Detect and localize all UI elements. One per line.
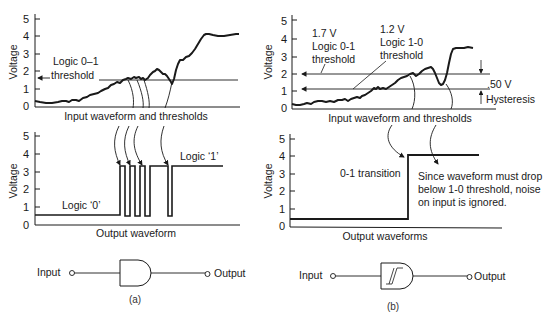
panel-b-gate: Input Output (b) <box>299 263 506 312</box>
y-ticks <box>292 20 297 91</box>
gate-input-label: Input <box>37 266 60 278</box>
y-ticks <box>35 136 40 207</box>
gate-output-label: Output <box>474 270 506 282</box>
transition-label: 0-1 transition <box>340 167 401 179</box>
tick-0: 0 <box>279 220 285 232</box>
input-terminal-icon <box>331 274 336 279</box>
lower-threshold-label-line2: threshold <box>380 49 423 61</box>
y-axis-label: Voltage <box>262 44 274 79</box>
tick-5: 5 <box>279 133 285 145</box>
y-ticks <box>290 139 295 209</box>
tick-3: 3 <box>279 168 285 180</box>
panel-a-gate: Input Output (a) <box>37 260 246 305</box>
hysteresis-value: .50 V <box>487 78 512 90</box>
tick-1: 1 <box>279 203 285 215</box>
caption-a: (a) <box>129 294 141 305</box>
tick-4: 4 <box>23 30 29 42</box>
tick-2: 2 <box>281 68 287 80</box>
tick-2: 2 <box>279 185 285 197</box>
x-axis-label: Input waveform and thresholds <box>64 110 208 122</box>
and-gate-icon <box>120 260 151 286</box>
logic-1-label: Logic ‘1’ <box>180 150 219 162</box>
output-terminal-icon <box>467 275 472 280</box>
tick-0: 0 <box>23 219 29 231</box>
note-line2: below 1-0 threshold, noise <box>418 183 541 195</box>
y-axis-label: Voltage <box>7 163 19 198</box>
panel-a-input-chart: 0 1 2 3 4 5 Voltage Logic 0–1 threshold … <box>7 13 240 122</box>
lower-threshold-label-line1: Logic 1-0 <box>380 36 423 48</box>
lower-threshold-value: 1.2 V <box>380 23 405 35</box>
panel-b-output-chart: 0 1 2 3 4 5 Voltage 0-1 transition Since… <box>262 133 542 242</box>
caption-b: (b) <box>387 301 399 312</box>
lower-label-leader <box>353 61 386 89</box>
schmitt-gate-icon <box>381 263 413 289</box>
x-axis <box>290 227 502 228</box>
note-line1: Since waveform must drop <box>418 170 542 182</box>
panel-b-input-chart: 0 1 2 3 4 5 Voltage 1.7 V Logic 0-1 thre… <box>262 15 535 124</box>
tick-3: 3 <box>281 51 287 63</box>
x-axis-label: Output waveforms <box>342 230 427 242</box>
note-line3: on input is ignored. <box>418 196 507 208</box>
logic-0-label: Logic ‘0’ <box>62 199 101 211</box>
tick-4: 4 <box>23 148 29 160</box>
panel-a-connector-arrows <box>115 80 172 165</box>
tick-4: 4 <box>281 33 287 45</box>
tick-5: 5 <box>23 130 29 142</box>
tick-1: 1 <box>23 201 29 213</box>
hysteresis-label: Hysteresis <box>486 93 535 105</box>
x-axis-label: Input waveform and thresholds <box>328 112 472 124</box>
upper-label-leader <box>321 64 325 73</box>
tick-3: 3 <box>23 166 29 178</box>
tick-5: 5 <box>23 13 29 25</box>
tick-0: 0 <box>281 102 287 114</box>
tick-0: 0 <box>23 100 29 112</box>
tick-2: 2 <box>23 183 29 195</box>
upper-threshold-value: 1.7 V <box>312 27 337 39</box>
y-axis-label: Voltage <box>7 44 19 79</box>
threshold-label-line1: Logic 0–1 <box>53 55 99 67</box>
gate-input-label: Input <box>299 269 322 281</box>
upper-threshold-label-line2: threshold <box>312 53 355 65</box>
hysteresis-diagram: 0 1 2 3 4 5 Voltage Logic 0–1 threshold … <box>0 0 546 322</box>
tick-5: 5 <box>281 15 287 27</box>
y-axis-label: Voltage <box>262 163 274 198</box>
tick-1: 1 <box>23 83 29 95</box>
input-terminal-icon <box>70 271 75 276</box>
tick-2: 2 <box>23 65 29 77</box>
threshold-label-line2: threshold <box>51 69 94 81</box>
tick-3: 3 <box>23 48 29 60</box>
y-ticks <box>35 19 40 89</box>
tick-4: 4 <box>279 150 285 162</box>
panel-a-output-chart: 0 1 2 3 4 5 Voltage Logic ‘0’ Logic ‘1’ … <box>7 130 240 239</box>
upper-threshold-label-line1: Logic 0-1 <box>312 40 355 52</box>
x-axis-label: Output waveform <box>96 227 176 239</box>
output-terminal-icon <box>205 272 210 277</box>
tick-1: 1 <box>281 85 287 97</box>
gate-output-label: Output <box>214 267 246 279</box>
